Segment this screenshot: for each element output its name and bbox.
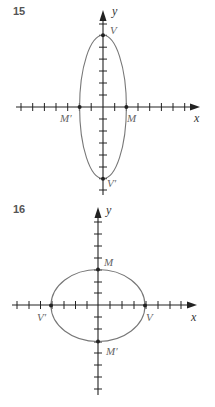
x-axis-arrow-icon (190, 104, 200, 111)
x-axis-label: x (193, 111, 200, 125)
x-axis-arrow-icon (187, 302, 197, 309)
y-axis-label: y (105, 203, 112, 217)
point-label-V-prime: V′ (107, 177, 117, 189)
y-axis-label: y (111, 4, 118, 18)
point-label-M: M (126, 112, 137, 124)
point-label-M: M (103, 256, 114, 268)
point-label-V-prime: V′ (37, 311, 47, 323)
graph-15: y x V V′ M M′ (16, 4, 200, 195)
ellipse-diagrams: y x V V′ M M′ y x V V′ M M′ (0, 0, 215, 407)
x-axis-label: x (190, 310, 197, 324)
graph-16: y x V V′ M M′ (12, 203, 197, 395)
y-axis-arrow-icon (100, 10, 107, 21)
point-label-V: V (110, 24, 118, 36)
point-label-M-prime: M′ (59, 112, 72, 124)
y-axis-arrow-icon (95, 207, 102, 218)
point-label-M-prime: M′ (105, 345, 118, 357)
point-label-V: V (146, 311, 154, 323)
